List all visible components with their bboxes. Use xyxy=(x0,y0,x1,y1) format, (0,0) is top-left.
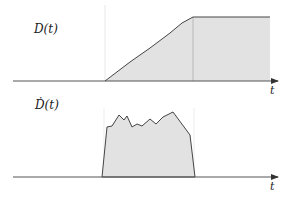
top-axis-label-t: t xyxy=(270,84,275,97)
bottom-axis-label-t: t xyxy=(270,180,275,193)
diagram-canvas: D(t) t Ḋ(t) t xyxy=(0,0,289,198)
bottom-pulse-fill xyxy=(102,112,195,177)
top-area-fill xyxy=(105,17,270,81)
bottom-plot-label: Ḋ(t) xyxy=(34,97,59,112)
bottom-plot: Ḋ(t) t xyxy=(13,97,278,193)
top-plot-label: D(t) xyxy=(33,22,58,36)
top-plot: D(t) t xyxy=(13,5,278,97)
